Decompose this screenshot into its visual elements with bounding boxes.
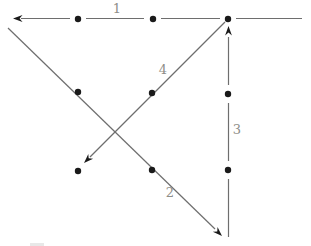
grid-dot <box>149 167 155 173</box>
edge-2-shaft <box>8 28 215 229</box>
grid-dot <box>225 91 231 97</box>
grid-dot <box>75 168 81 174</box>
figure-svg: 1234 <box>0 0 311 246</box>
grid-dot <box>225 167 231 173</box>
grid-dot <box>75 89 81 95</box>
grid-dot <box>75 16 81 22</box>
edge-1-label: 1 <box>113 1 121 16</box>
edge-4-shaft <box>90 22 225 157</box>
edge-2-label: 2 <box>166 185 174 200</box>
edge-3-label: 3 <box>233 122 241 137</box>
figure-canvas: 1234 <box>0 0 311 246</box>
edge-4-label: 4 <box>159 62 167 77</box>
edge-3-arrowhead-icon <box>225 26 232 36</box>
grid-dot <box>225 16 231 22</box>
grid-dot <box>149 90 155 96</box>
grid-dot <box>150 16 156 22</box>
